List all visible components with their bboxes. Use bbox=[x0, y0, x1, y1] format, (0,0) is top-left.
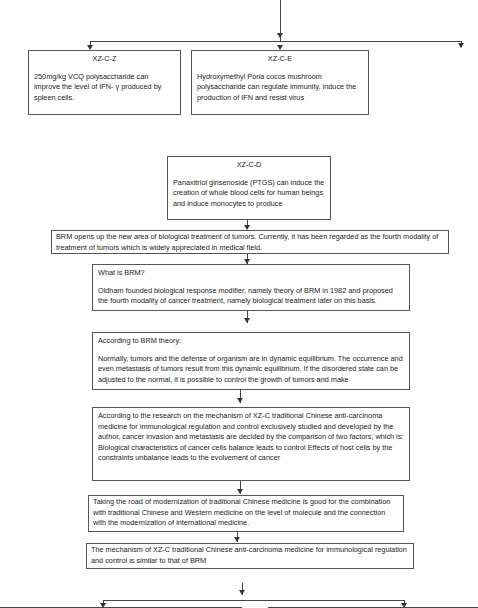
box-text: BRM opens up the new area of biological … bbox=[56, 232, 444, 253]
xz-c-e-box: XZ-C-E Hydroxymethyl Poria cocos mushroo… bbox=[191, 50, 369, 115]
arrow-down-icon bbox=[244, 318, 250, 323]
box-text: Taking the road of modernization of trad… bbox=[93, 497, 399, 529]
xz-c-similar-brm-box: The mechanism of XZ-C traditional Chines… bbox=[86, 543, 414, 569]
arrow-down-icon bbox=[237, 489, 243, 494]
xz-c-mechanism-box: According to the research on the mechani… bbox=[92, 407, 410, 481]
arrow-down-icon bbox=[277, 33, 283, 38]
arrow-down-icon bbox=[234, 537, 240, 542]
box-text: Hydroxymethyl Poria cocos mushroom polys… bbox=[197, 72, 363, 104]
xz-c-d-box: XZ-C-D Panaxitriol ginsenoside (PTGS) ca… bbox=[167, 156, 331, 220]
box-text: According to the research on the mechani… bbox=[98, 411, 404, 464]
box-text: The mechanism of XZ-C traditional Chines… bbox=[91, 545, 409, 566]
box-title: XZ-C-E bbox=[197, 54, 363, 65]
box-title: What is BRM? bbox=[98, 268, 404, 279]
box-title: XZ-C-Z bbox=[34, 54, 175, 65]
brm-theory-box: According to BRM theory: Normally, tumor… bbox=[92, 332, 410, 390]
xz-c-z-box: XZ-C-Z 250mg/kg VCQ polysaccharide can i… bbox=[28, 50, 181, 115]
arrow-down-icon bbox=[237, 398, 243, 403]
box-title: According to BRM theory: bbox=[98, 336, 404, 347]
box-title: XZ-C-D bbox=[173, 160, 325, 171]
branch-line bbox=[103, 600, 405, 601]
arrow-down-icon bbox=[239, 590, 245, 595]
arrow-down-icon bbox=[458, 43, 464, 48]
branch-line bbox=[90, 41, 462, 42]
box-text: Panaxitriol ginsenoside (PTGS) can induc… bbox=[173, 178, 325, 210]
brm-intro-box: BRM opens up the new area of biological … bbox=[51, 230, 449, 254]
box-text: 250mg/kg VCQ polysaccharide can improve … bbox=[34, 72, 175, 104]
modernization-box: Taking the road of modernization of trad… bbox=[88, 495, 404, 532]
what-is-brm-box: What is BRM? Oldham founded biological r… bbox=[92, 264, 410, 311]
box-text: Oldham founded biological response modif… bbox=[98, 286, 404, 307]
box-text: Normally, tumors and the defense of orga… bbox=[98, 354, 404, 386]
